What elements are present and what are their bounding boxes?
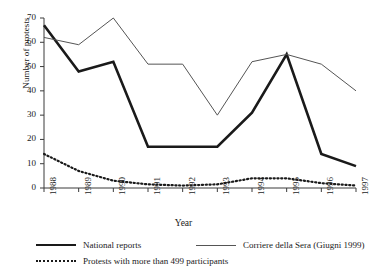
series-lines bbox=[44, 18, 356, 186]
x-axis-label: Year bbox=[0, 218, 367, 228]
axis-tick-marks bbox=[40, 18, 356, 192]
legend-label: Protests with more than 499 participants bbox=[83, 256, 228, 266]
legend-swatch-solid-thin-icon bbox=[196, 245, 236, 246]
series-line bbox=[44, 25, 356, 166]
axis-lines bbox=[44, 18, 356, 188]
legend-label: National reports bbox=[83, 240, 141, 250]
legend-item-large-protests: Protests with more than 499 participants bbox=[36, 256, 228, 266]
legend-item-national-reports: National reports bbox=[36, 240, 141, 250]
legend-swatch-dotted-icon bbox=[36, 260, 76, 262]
legend-label: Corriere della Sera (Giugni 1999) bbox=[243, 240, 364, 250]
series-line bbox=[44, 18, 356, 115]
legend-item-corriere-della-sera: Corriere della Sera (Giugni 1999) bbox=[196, 240, 364, 250]
legend-swatch-solid-bold-icon bbox=[36, 244, 76, 246]
series-line bbox=[44, 154, 356, 186]
